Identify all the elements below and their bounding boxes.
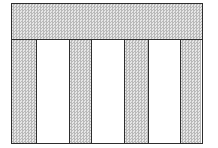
column-4-white xyxy=(91,40,124,143)
column-6-white xyxy=(148,40,180,143)
column-1-shaded xyxy=(12,40,36,143)
column-5-shaded xyxy=(124,40,148,143)
column-2-white xyxy=(36,40,69,143)
column-3-shaded xyxy=(69,40,91,143)
top-band xyxy=(12,4,202,40)
column-7-shaded xyxy=(180,40,201,143)
layout-frame xyxy=(11,3,203,144)
